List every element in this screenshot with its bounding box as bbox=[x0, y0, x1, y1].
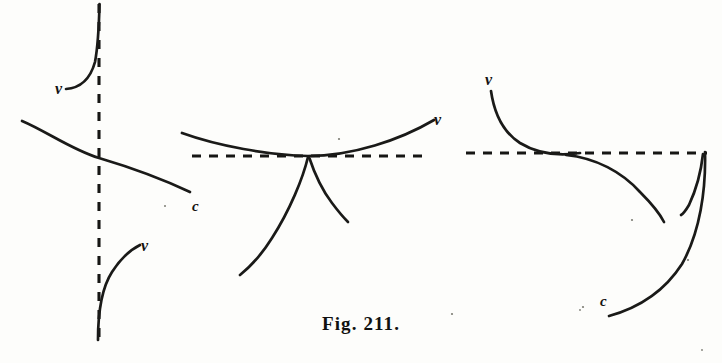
speck-caption-area-2 bbox=[701, 349, 703, 351]
figure-caption: Fig. 211. bbox=[0, 313, 722, 335]
left-panel-label-v-lower: v bbox=[141, 237, 149, 254]
speck-middle-left bbox=[164, 205, 166, 207]
middle-panel-cusp-branch-right bbox=[309, 157, 348, 222]
right-panel-upper-branch bbox=[491, 91, 580, 154]
speck-middle bbox=[338, 138, 340, 140]
left-panel: v c v bbox=[22, 4, 199, 346]
left-panel-label-v-upper: v bbox=[55, 80, 63, 97]
middle-panel-tangent-branch bbox=[182, 120, 434, 156]
speck-caption-right bbox=[579, 309, 581, 311]
middle-panel-label-v: v bbox=[434, 111, 442, 128]
right-panel-label-v: v bbox=[485, 71, 493, 88]
left-panel-label-c: c bbox=[192, 198, 199, 214]
middle-panel: v bbox=[164, 111, 442, 275]
figure-plate: v c v v bbox=[0, 0, 722, 363]
speck-right-lower bbox=[687, 259, 689, 261]
figure-drawing-canvas: v c v v bbox=[0, 0, 722, 363]
right-panel-short-vertical-branch bbox=[681, 154, 703, 215]
left-panel-middle-branch bbox=[22, 121, 190, 192]
right-panel: v c bbox=[466, 71, 707, 316]
right-panel-descending-branch bbox=[566, 155, 664, 222]
right-panel-label-c: c bbox=[600, 293, 607, 309]
speck-right-upper bbox=[631, 219, 633, 221]
speck-right-bottom bbox=[582, 306, 584, 308]
left-panel-upper-branch bbox=[66, 4, 100, 89]
middle-panel-cusp-branch-left bbox=[240, 157, 308, 275]
